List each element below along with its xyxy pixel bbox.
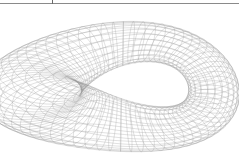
- wireframe-figure: [0, 0, 239, 165]
- wireframe-mesh: [0, 0, 239, 165]
